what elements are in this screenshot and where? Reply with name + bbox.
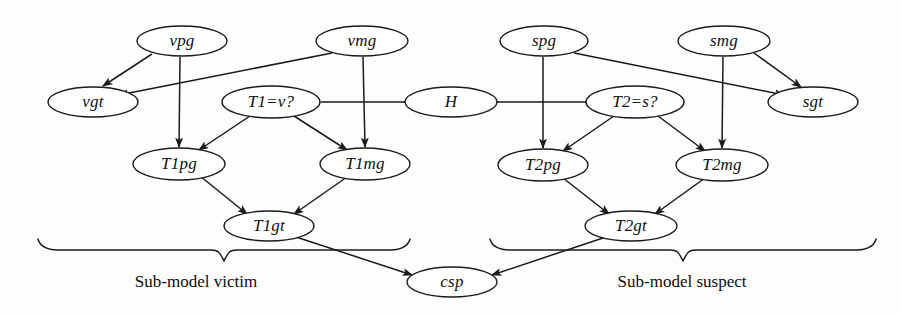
node-T1mg[interactable] <box>320 148 410 180</box>
edge-T1v-to-T1pg <box>199 116 250 150</box>
edge-T1mg-to-T1gt <box>294 177 347 214</box>
node-T2s[interactable] <box>586 86 684 118</box>
edge-smg-to-sgt <box>754 53 801 87</box>
node-csp[interactable] <box>407 267 497 297</box>
edge-T1v-to-T1mg <box>294 116 347 150</box>
brace-victim-label: Sub-model victim <box>135 272 257 292</box>
brace-suspect <box>490 239 876 261</box>
node-vgt[interactable] <box>48 87 138 117</box>
diagram-canvas: vpgvmgvgtT1=v?HT2=s?spgsmgsgtT1pgT1mgT1g… <box>0 0 902 314</box>
node-smg[interactable] <box>678 26 770 56</box>
edge-smg-to-T2mg <box>722 57 723 148</box>
edge-T2gt-to-csp <box>492 237 606 275</box>
node-T2pg[interactable] <box>498 149 588 181</box>
node-T2mg[interactable] <box>676 149 768 181</box>
node-vmg[interactable] <box>316 26 408 56</box>
edge-vpg-to-vgt <box>103 54 152 86</box>
node-H[interactable] <box>405 87 497 117</box>
edge-T2mg-to-T2gt <box>655 178 705 214</box>
node-vpg[interactable] <box>137 26 227 56</box>
node-T1v[interactable] <box>222 86 320 118</box>
edge-vpg-to-T1pg <box>179 57 180 147</box>
edge-T2pg-to-T2gt <box>563 178 609 214</box>
edge-T2s-to-T2pg <box>563 116 614 151</box>
node-spg[interactable] <box>500 26 588 56</box>
brace-victim <box>38 239 410 261</box>
node-T1gt[interactable] <box>224 211 314 241</box>
brace-suspect-label: Sub-model suspect <box>618 272 747 292</box>
edge-T1pg-to-T1gt <box>200 176 247 214</box>
edge-T1gt-to-csp <box>296 237 412 275</box>
node-T2gt[interactable] <box>585 211 677 241</box>
nodes-layer <box>48 26 858 297</box>
graph-svg <box>0 0 902 314</box>
node-sgt[interactable] <box>768 87 858 117</box>
node-T1pg[interactable] <box>133 148 225 180</box>
edge-T2s-to-T2mg <box>658 116 705 151</box>
braces-layer <box>38 239 876 261</box>
